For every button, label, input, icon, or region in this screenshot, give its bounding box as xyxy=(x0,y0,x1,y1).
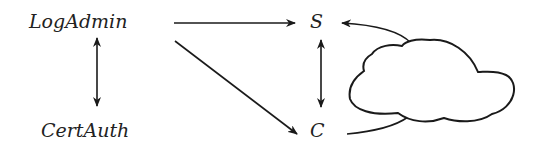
edge-cloud-to-s xyxy=(342,23,411,43)
edge-c-via-cloud xyxy=(347,117,408,134)
node-certauth: CertAuth xyxy=(41,119,129,141)
node-logadmin: LogAdmin xyxy=(29,10,127,32)
edge-logadmin-to-c xyxy=(175,41,297,134)
cloud-icon xyxy=(350,39,514,121)
node-server: S xyxy=(310,10,323,32)
node-client: C xyxy=(310,119,325,141)
